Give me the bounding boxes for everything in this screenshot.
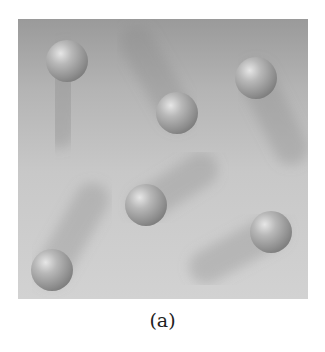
- sphere-4: [125, 184, 167, 226]
- gas-particles-panel: [18, 19, 308, 299]
- particles-illustration: [18, 19, 308, 299]
- sphere-5: [31, 249, 73, 291]
- sphere-2: [156, 92, 198, 134]
- sphere-1: [46, 40, 88, 82]
- figure-caption: (a): [0, 309, 325, 331]
- sphere-3: [235, 57, 277, 99]
- sphere-6: [250, 211, 292, 253]
